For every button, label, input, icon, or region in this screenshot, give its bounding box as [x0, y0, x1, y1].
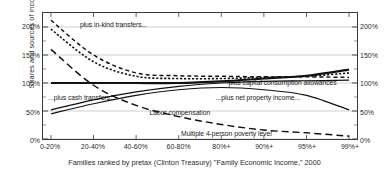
x-axis-title: Families ranked by pretax (Clinton Treas…	[0, 158, 389, 167]
y-tick-label-right: 100%	[360, 80, 378, 87]
x-axis: 0-20%20-40%40-60%60-80%80%+90%+95%+99%+	[42, 143, 358, 155]
x-tick-label: 0-20%	[40, 143, 60, 150]
x-tick-label: 40-60%	[124, 143, 148, 150]
y-tick-label-left: 0%	[30, 137, 40, 144]
x-tick-label: 20-40%	[81, 143, 105, 150]
series-annotation-0: plus in-kind transfers...	[80, 21, 147, 28]
y-tick-label-right: 150%	[360, 51, 378, 58]
y-tick-label-left: 100%	[22, 80, 40, 87]
x-tick-label: 90%+	[255, 143, 273, 150]
y-axis-left: Shares and sources of income 0%50%100%15…	[10, 0, 40, 175]
series-annotation-2: ...plus net property income...	[216, 94, 300, 101]
series-annotation-1: plus capital consumption allowances	[228, 79, 336, 86]
chart-container: Shares and sources of income 0%50%100%15…	[0, 0, 389, 175]
y-tick-label-left: 200%	[22, 23, 40, 30]
series-annotation-3: ...plus cash transfers...	[48, 94, 115, 101]
series-annotation-5: Multiple 4-person poverty level	[181, 130, 272, 137]
series-annotation-4: Labor compensation	[149, 109, 210, 116]
plot-area	[42, 12, 358, 140]
y-tick-label-left: 50%	[26, 108, 40, 115]
x-tick-label: 99%+	[341, 143, 359, 150]
series-line-1	[51, 29, 349, 78]
y-tick-label-left: 150%	[22, 51, 40, 58]
y-tick-label-right: 200%	[360, 23, 378, 30]
x-tick-label: 60-80%	[166, 143, 190, 150]
y-axis-right: 0%50%100%150%200%	[360, 0, 388, 175]
y-tick-label-right: 0%	[360, 137, 370, 144]
series-line-0	[51, 20, 349, 77]
plot-svg	[43, 13, 357, 139]
x-tick-label: 80%+	[212, 143, 230, 150]
y-tick-label-right: 50%	[360, 108, 374, 115]
x-tick-label: 95%+	[298, 143, 316, 150]
